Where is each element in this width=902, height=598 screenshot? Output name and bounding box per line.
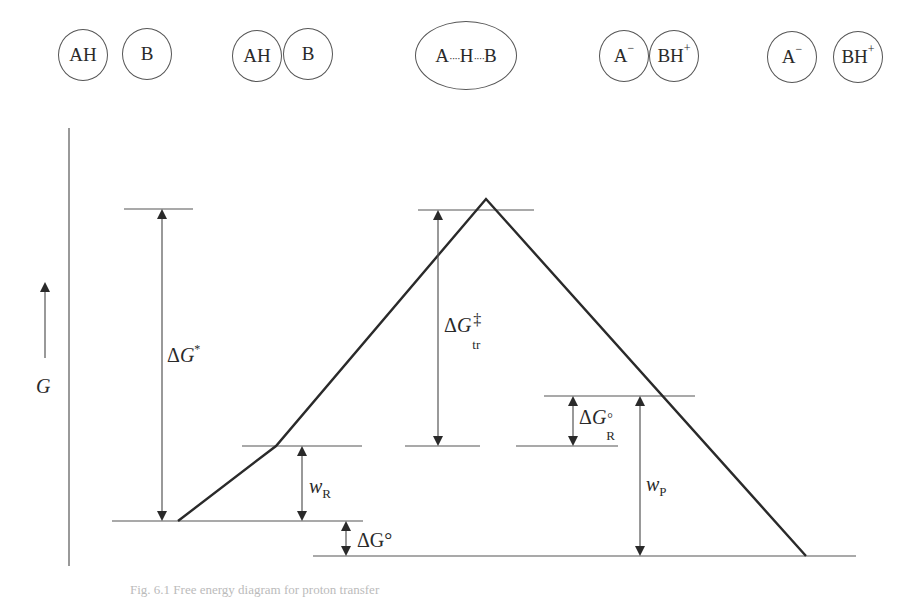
subscript: R (606, 429, 615, 442)
label-delta-g-r0: ΔG°R (579, 407, 618, 427)
delta-g0-arrow-icon (341, 521, 351, 556)
delta-symbol: Δ (579, 406, 592, 428)
subscript: tr (472, 338, 480, 351)
label-text: ΔG° (357, 529, 392, 551)
variable: G (592, 406, 606, 428)
delta-g-r0-arrow-icon (568, 396, 578, 446)
figure-caption: Fig. 6.1 Free energy diagram for proton … (130, 582, 379, 598)
label-w-r: wR (309, 476, 331, 496)
variable: G (180, 344, 194, 366)
label-delta-g0: ΔG° (357, 530, 392, 550)
variable: w (646, 473, 659, 495)
w-r-arrow-icon (297, 446, 307, 521)
g-direction-arrow-icon (40, 282, 50, 358)
superscript: ‡ (473, 312, 481, 328)
subscript: R (322, 486, 331, 501)
label-w-p: wP (646, 474, 667, 494)
axis-label-g: G (36, 376, 50, 396)
delta-g-tr-arrow-icon (433, 210, 443, 446)
delta-g-star-arrow-icon (157, 209, 167, 521)
axis-label-text: G (36, 375, 50, 397)
w-p-arrow-icon (635, 396, 645, 556)
variable: G (457, 314, 471, 336)
subscript: P (659, 484, 666, 499)
delta-symbol: Δ (444, 314, 457, 336)
label-delta-g-tr: ΔG‡tr (444, 315, 487, 335)
variable: w (309, 475, 322, 497)
superscript: * (194, 342, 200, 356)
free-energy-curve (178, 199, 806, 556)
superscript: ° (607, 412, 613, 426)
label-delta-g-star: ΔG* (167, 345, 200, 365)
delta-symbol: Δ (167, 344, 180, 366)
